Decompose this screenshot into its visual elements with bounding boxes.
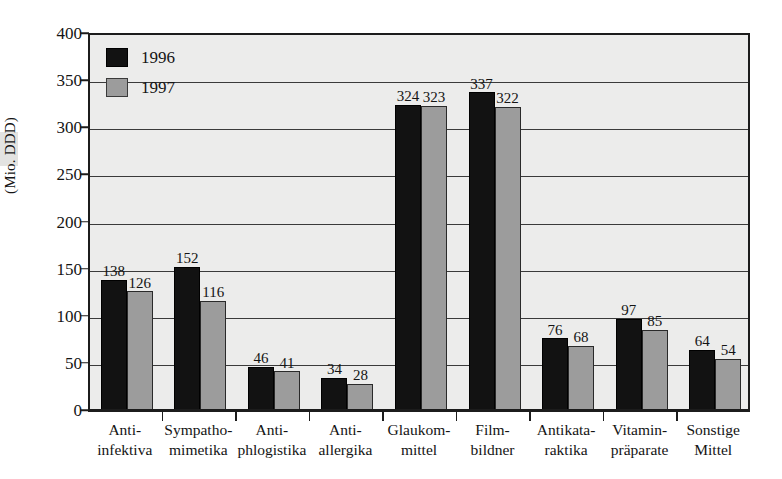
y-tick-mark-100: [80, 315, 89, 317]
bar-value-label: 34: [327, 362, 342, 378]
bar-value-label: 323: [423, 90, 446, 106]
bar-chart-figure: (Mio. DDD) 050100150200250300350400 1381…: [0, 0, 782, 479]
y-tick-mark-350: [80, 79, 89, 81]
bar-value-label: 76: [548, 323, 563, 339]
bar-value-label: 54: [721, 343, 736, 359]
bar-1997-Sonstige Mittel[interactable]: 54: [715, 359, 741, 410]
x-axis-baseline: [88, 409, 750, 412]
bar-value-label: 337: [470, 77, 493, 93]
x-tick-mark-6: [529, 410, 531, 421]
bar-1997-Film-bildner[interactable]: 322: [495, 107, 521, 410]
bar-1996-Sonstige Mittel[interactable]: 64: [689, 350, 715, 410]
y-tick-label-400: 400: [40, 25, 82, 42]
x-tick-mark-8: [676, 410, 678, 421]
bar-1997-Antikata-raktika[interactable]: 68: [568, 346, 594, 410]
y-tick-label-100: 100: [40, 307, 82, 324]
bar-value-label: 28: [353, 368, 368, 384]
y-tick-label-0: 0: [40, 402, 82, 419]
bar-value-label: 138: [103, 264, 126, 280]
x-category-label-line: Mittel: [670, 440, 756, 460]
bar-value-label: 322: [496, 91, 519, 107]
y-tick-label-250: 250: [40, 166, 82, 183]
y-tick-label-50: 50: [40, 354, 82, 371]
bar-1997-Anti-phlogistika[interactable]: 41: [274, 371, 300, 410]
bar-1996-Sympatho-mimetika[interactable]: 152: [174, 267, 200, 410]
bar-1997-Anti-allergika[interactable]: 28: [347, 384, 373, 410]
bar-1997-Sympatho-mimetika[interactable]: 116: [200, 301, 226, 410]
bar-value-label: 152: [176, 251, 199, 267]
y-tick-mark-50: [80, 362, 89, 364]
chart-legend: 19961997: [106, 44, 256, 104]
bar-value-label: 41: [279, 356, 294, 372]
bar-1996-Antikata-raktika[interactable]: 76: [542, 338, 568, 410]
bar-value-label: 97: [621, 303, 636, 319]
bar-1996-Anti-allergika[interactable]: 34: [321, 378, 347, 410]
bar-value-label: 85: [647, 314, 662, 330]
bar-value-label: 116: [202, 285, 224, 301]
bar-value-label: 64: [695, 334, 710, 350]
x-tick-mark-7: [603, 410, 605, 421]
bar-value-label: 324: [397, 89, 420, 105]
y-tick-label-150: 150: [40, 260, 82, 277]
bar-1997-Vitamin-präparate[interactable]: 85: [642, 330, 668, 410]
y-tick-mark-250: [80, 174, 89, 176]
x-axis-category-labels: Anti-infektivaSympatho-mimetikaAnti-phlo…: [88, 420, 750, 476]
legend-label-1997: 1997: [141, 79, 175, 96]
x-tick-mark-1: [162, 410, 164, 421]
bar-value-label: 46: [253, 351, 268, 367]
x-tick-mark-5: [456, 410, 458, 421]
legend-label-1996: 1996: [141, 49, 175, 66]
y-tick-label-200: 200: [40, 213, 82, 230]
bar-1997-Anti-infektiva[interactable]: 126: [127, 291, 153, 410]
x-tick-mark-4: [382, 410, 384, 421]
y-tick-mark-0: [80, 409, 89, 411]
x-category-label-line: Sonstige: [670, 420, 756, 440]
legend-item-1997[interactable]: 1997: [106, 74, 256, 100]
y-tick-mark-300: [80, 127, 89, 129]
y-tick-mark-150: [80, 268, 89, 270]
legend-swatch-1996: [106, 48, 128, 67]
bar-1996-Anti-phlogistika[interactable]: 46: [248, 367, 274, 410]
y-axis-tick-labels: 050100150200250300350400: [28, 33, 82, 410]
legend-item-1996[interactable]: 1996: [106, 44, 256, 70]
bar-1996-Film-bildner[interactable]: 337: [469, 92, 495, 410]
bar-1996-Glaukom-mittel[interactable]: 324: [395, 105, 421, 410]
x-tick-mark-3: [309, 410, 311, 421]
bar-value-label: 126: [129, 276, 152, 292]
bar-value-label: 68: [574, 330, 589, 346]
y-tick-label-350: 350: [40, 72, 82, 89]
y-tick-label-300: 300: [40, 119, 82, 136]
bar-1996-Anti-infektiva[interactable]: 138: [101, 280, 127, 410]
bar-1996-Vitamin-präparate[interactable]: 97: [616, 319, 642, 410]
x-tick-mark-2: [235, 410, 237, 421]
y-tick-mark-200: [80, 221, 89, 223]
y-tick-mark-400: [80, 32, 89, 34]
bar-1997-Glaukom-mittel[interactable]: 323: [421, 106, 447, 410]
legend-swatch-1997: [106, 78, 128, 97]
x-category-label-Sonstige Mittel: SonstigeMittel: [670, 420, 756, 460]
y-axis-title: (Mio. DDD): [2, 54, 19, 194]
